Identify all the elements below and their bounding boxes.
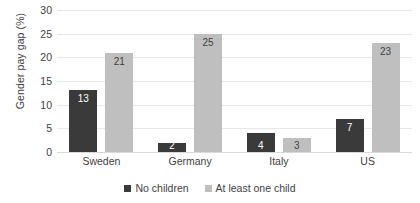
bar-group-us: 723 (323, 10, 412, 152)
bars: 723 (323, 10, 412, 152)
gender-pay-gap-bar-chart: Gender pay gap (%) 302520151050 13212254… (0, 0, 420, 203)
bar-value-label: 21 (105, 56, 133, 67)
chart-legend: No childrenAt least one child (0, 182, 420, 194)
y-axis-tick-15: 15 (30, 75, 52, 87)
bar-us-series-0[interactable]: 7 (336, 119, 364, 152)
bars: 43 (235, 10, 324, 152)
bar-value-label: 13 (69, 93, 97, 104)
bar-value-label: 23 (372, 46, 400, 57)
bar-sweden-series-0[interactable]: 13 (69, 90, 97, 152)
x-axis-label-germany: Germany (146, 155, 235, 173)
bar-group-sweden: 1321 (57, 10, 146, 152)
y-axis-tick-labels: 302520151050 (30, 0, 52, 203)
y-axis-tick-0: 0 (30, 146, 52, 158)
x-axis-label-sweden: Sweden (57, 155, 146, 173)
plot-area: 132122543723 (57, 10, 412, 152)
y-axis-title: Gender pay gap (%) (14, 1, 26, 121)
bar-value-label: 2 (158, 140, 186, 151)
bar-value-label: 4 (247, 140, 275, 151)
y-axis-tick-5: 5 (30, 122, 52, 134)
bar-germany-series-0[interactable]: 2 (158, 143, 186, 152)
legend-label: At least one child (216, 182, 296, 194)
bar-us-series-1[interactable]: 23 (372, 43, 400, 152)
bar-value-label: 25 (194, 37, 222, 48)
gridline-0 (57, 152, 412, 153)
y-axis-tick-10: 10 (30, 99, 52, 111)
legend-item-0[interactable]: No children (124, 182, 188, 194)
square-swatch-icon (124, 185, 131, 192)
bar-group-germany: 225 (146, 10, 235, 152)
bar-groups: 132122543723 (57, 10, 412, 152)
bar-germany-series-1[interactable]: 25 (194, 34, 222, 152)
bars: 1321 (57, 10, 146, 152)
square-swatch-icon (205, 185, 212, 192)
bar-italy-series-1[interactable]: 3 (283, 138, 311, 152)
bars: 225 (146, 10, 235, 152)
bar-value-label: 7 (336, 122, 364, 133)
y-axis-tick-25: 25 (30, 28, 52, 40)
bar-sweden-series-1[interactable]: 21 (105, 53, 133, 152)
y-axis-tick-20: 20 (30, 51, 52, 63)
x-axis-category-labels: SwedenGermanyItalyUS (57, 155, 412, 173)
legend-item-1[interactable]: At least one child (205, 182, 296, 194)
x-axis-label-us: US (323, 155, 412, 173)
bar-italy-series-0[interactable]: 4 (247, 133, 275, 152)
x-axis-label-italy: Italy (235, 155, 324, 173)
legend-label: No children (135, 182, 188, 194)
y-axis-tick-30: 30 (30, 4, 52, 16)
bar-group-italy: 43 (235, 10, 324, 152)
bar-value-label: 3 (283, 140, 311, 151)
